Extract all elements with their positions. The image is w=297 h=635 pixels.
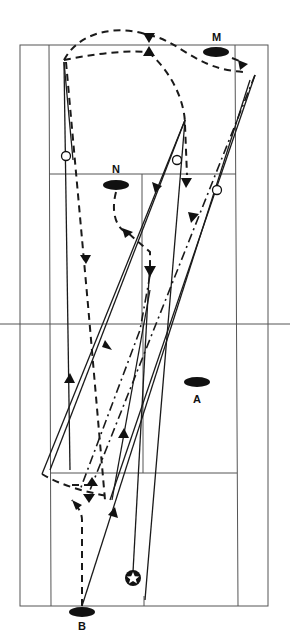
player-n-label: N xyxy=(112,163,120,175)
center-return-shot xyxy=(112,290,150,500)
top-return-path xyxy=(64,52,148,60)
movement-paths xyxy=(42,30,245,606)
right-long-dashdot xyxy=(90,75,255,490)
badminton-court-diagram: M N A B xyxy=(0,0,297,635)
player-b: B xyxy=(69,607,95,632)
hit-point-marker xyxy=(62,152,71,161)
player-a-label: A xyxy=(193,393,201,405)
player-a-marker xyxy=(184,377,210,387)
player-n: N xyxy=(103,163,129,190)
arrow-up-icon xyxy=(64,373,75,383)
player-a: A xyxy=(184,377,210,405)
player-n-marker xyxy=(103,180,129,190)
right-cross-shot-1 xyxy=(110,75,255,500)
long-cross-shot-3 xyxy=(145,120,185,600)
arrow-down-icon xyxy=(80,255,91,264)
arrow-up-icon xyxy=(86,477,98,486)
arrow-down-icon xyxy=(181,178,192,188)
arrow-up-icon xyxy=(83,494,95,503)
arrowheads xyxy=(64,33,248,518)
player-b-marker xyxy=(69,607,95,617)
right-cross-shot-2 xyxy=(82,80,250,606)
star-icon xyxy=(125,570,141,586)
hit-point-marker xyxy=(213,186,222,195)
hit-point-marker xyxy=(173,156,182,165)
arrow-up-icon xyxy=(72,500,82,510)
player-m-marker xyxy=(203,47,229,57)
arrow-up-icon xyxy=(102,340,112,350)
arrow-down-icon xyxy=(143,33,155,43)
player-m: M xyxy=(203,31,229,57)
arrow-down-icon xyxy=(144,266,156,277)
left-singles-sideline xyxy=(49,45,51,606)
arrow-right-icon xyxy=(238,60,248,70)
player-m-label: M xyxy=(212,31,221,43)
b-movement-path xyxy=(72,500,82,606)
player-b-label: B xyxy=(78,620,86,632)
center-descent-path xyxy=(148,52,187,175)
dash-dot-paths xyxy=(80,75,255,490)
left-dashed-descent xyxy=(66,62,105,500)
arrow-up-icon xyxy=(143,46,155,56)
m-curve-path xyxy=(148,35,245,72)
court-lines xyxy=(0,45,290,606)
arrow-up-icon xyxy=(118,428,129,438)
shuttle-paths xyxy=(42,62,255,606)
